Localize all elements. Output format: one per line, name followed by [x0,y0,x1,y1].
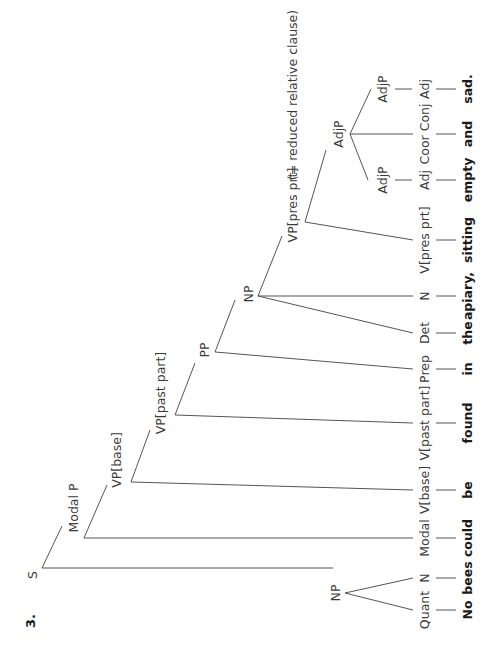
node-modal-p: Modal P [66,483,81,532]
leaf-word: No [460,600,475,619]
tree-edges [42,89,456,610]
node-labels: S Modal P VP[base] VP[past part] PP NP V… [25,10,390,602]
figure-number: 3. [23,614,38,628]
node-adjp-1: AdjP [375,166,390,194]
edge-vpprs-adjp [305,150,326,222]
node-adjp-2: AdjP [375,75,390,103]
edge-vpbase-vppast [131,430,150,482]
leaf-category: Prep [417,355,432,383]
edge-pp-prep [215,352,413,369]
node-np-object: NP [241,285,256,302]
leaf-category: Adj [417,170,432,190]
leaf-category: V[past part] [417,386,432,461]
syntax-tree-diagram: 3. S Modal P VP[base] VP[past part] PP N… [0,0,504,666]
leaf-word: the [460,321,475,344]
leaf-word: be [460,481,475,498]
edge-np-n [345,578,413,593]
leaf-category: Modal [417,519,432,557]
edge-vpprs-vprs [305,222,413,240]
node-pp: PP [197,342,212,358]
leaf-word: apiary, [460,272,475,320]
node-vp-past-part: VP[past part] [153,352,168,434]
leaf-category: Quant [417,591,432,629]
leaf-word: found [460,403,475,444]
leaf-word: and [460,121,475,147]
node-adjp-coord: AdjP [331,120,346,148]
leaf-word: could [460,519,475,557]
leaf-category: Adj [417,79,432,99]
edge-s-modalp [42,526,62,568]
sentence-words: No bees could be found in the apiary, si… [460,74,475,619]
leaf-word: bees [460,561,475,594]
node-vp-pres-prt-note: (= reduced relative clause) [285,10,300,180]
leaf-category: V[pres prt] [417,206,432,273]
edge-modalp-vpbase [84,485,107,538]
leaf-category: N [417,573,432,582]
edge-np-det [258,296,413,333]
edge-pp-np [215,300,235,352]
leaf-category: Coor Conj [417,104,432,165]
edge-vpbase-vbase [131,482,413,490]
leaf-categories: Quant N Modal V[base] V[past part] Prep … [417,79,432,629]
edge-adjp-adjp1 [350,134,368,180]
leaf-word: sitting [460,217,475,263]
leaf-category: V[base] [417,466,432,514]
leaf-category: Det [417,322,432,344]
leaf-word: empty [460,158,475,203]
node-s: S [25,571,40,579]
edge-adjp-adjp2 [350,89,371,134]
leaf-word: sad. [460,74,475,104]
node-vp-base: VP[base] [109,432,124,488]
edge-vppast-vpast [175,415,413,423]
edge-vppast-pp [175,363,195,415]
leaf-category: N [417,291,432,300]
node-np-subject: NP [328,584,343,601]
leaf-word: in [460,362,475,375]
edge-np-quant [345,593,413,610]
leaf-ticks [436,89,456,610]
edge-np-vpprs [258,236,282,296]
